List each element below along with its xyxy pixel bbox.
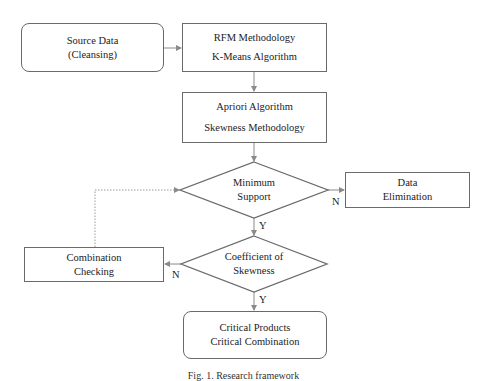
decision-min-support-line2: Support bbox=[204, 190, 304, 204]
decision-coef-skewness: Coefficient of Skewness bbox=[204, 250, 304, 278]
node-critical-line1: Critical Products bbox=[220, 321, 291, 335]
node-apriori-line2: Skewness Methodology bbox=[204, 121, 305, 135]
decision-min-support: Minimum Support bbox=[204, 176, 304, 204]
node-combination-line1: Combination bbox=[67, 251, 122, 265]
node-combination-line2: Checking bbox=[74, 265, 114, 279]
node-critical: Critical Products Critical Combination bbox=[183, 311, 327, 359]
node-elimination-line1: Data bbox=[398, 176, 418, 190]
node-source-data: Source Data (Cleansing) bbox=[21, 23, 164, 72]
node-rfm-line2: K-Means Algorithm bbox=[212, 50, 297, 64]
decision-coef-line2: Skewness bbox=[204, 264, 304, 278]
node-rfm-line1: RFM Methodology bbox=[214, 31, 295, 45]
edge-label-skewness-no: N bbox=[172, 269, 180, 280]
node-source-line1: Source Data bbox=[67, 34, 119, 48]
node-source-line2: (Cleansing) bbox=[68, 48, 117, 62]
node-critical-line2: Critical Combination bbox=[211, 335, 300, 349]
decision-coef-line1: Coefficient of bbox=[204, 250, 304, 264]
decision-min-support-line1: Minimum bbox=[204, 176, 304, 190]
edge-label-skewness-yes: Y bbox=[259, 294, 267, 305]
edge-label-support-no: N bbox=[332, 196, 340, 207]
node-data-elimination: Data Elimination bbox=[345, 172, 470, 208]
node-apriori-skewness: Apriori Algorithm Skewness Methodology bbox=[182, 92, 327, 143]
arrow-combination-to-support bbox=[95, 190, 179, 247]
node-elimination-line2: Elimination bbox=[383, 190, 433, 204]
node-combination-checking: Combination Checking bbox=[24, 247, 164, 282]
edge-label-support-yes: Y bbox=[259, 220, 267, 231]
node-apriori-line1: Apriori Algorithm bbox=[216, 100, 293, 114]
node-rfm-kmeans: RFM Methodology K-Means Algorithm bbox=[182, 23, 327, 72]
figure-caption: Fig. 1. Research framework bbox=[0, 370, 487, 381]
